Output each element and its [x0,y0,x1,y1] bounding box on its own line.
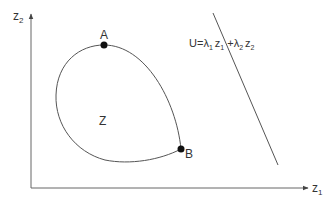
line-equation-label: U=λ1z1+λ2z2 [189,37,255,51]
point-a [101,42,108,49]
region-label: Z [99,114,106,128]
iso-utility-line [213,13,278,165]
x-axis-label: z1 [312,181,323,197]
diagram-canvas: z2 z1 Z A B U=λ1z1+λ2z2 [0,0,330,206]
region-z-boundary [56,45,181,162]
point-a-label: A [100,28,108,42]
point-b-label: B [185,147,193,161]
point-b [178,146,185,153]
y-axis-label: z2 [13,9,24,25]
